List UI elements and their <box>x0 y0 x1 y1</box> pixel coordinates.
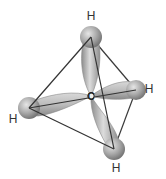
hydrogen-label-top: H <box>87 9 96 23</box>
hydrogen-label-bottom: H <box>112 161 121 175</box>
hydrogen-label-left: H <box>9 112 18 126</box>
hydrogen-label-right: H <box>145 82 154 96</box>
carbon-label: C <box>87 91 94 102</box>
hydrogen-atoms <box>18 26 146 160</box>
orbital-lobes <box>29 36 138 147</box>
methane-tetrahedron-diagram: C H H H H <box>0 0 166 179</box>
